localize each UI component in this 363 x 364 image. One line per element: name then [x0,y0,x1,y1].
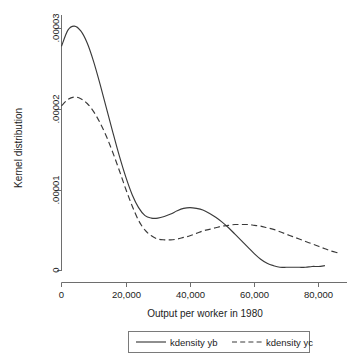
x-tick-label: 40,000 [176,289,205,300]
legend-label-kdensity-yc: kdensity yc [266,337,313,348]
y-tick-label: .00003 [50,13,61,42]
y-tick-group: 0 .00001 .00002 .00003 [50,13,61,272]
y-tick-label: .00001 [50,175,61,204]
y-tick-label: .00002 [50,94,61,123]
x-tick-group: 0 20,000 40,000 60,000 80,000 [59,283,333,301]
series-line-kdensity-yc [62,97,338,253]
x-tick-label: 0 [59,289,64,300]
series-line-kdensity-yb [62,26,325,267]
x-tick-label: 80,000 [304,289,333,300]
y-tick-label: 0 [50,267,61,272]
x-axis-title: Output per worker in 1980 [147,308,263,319]
chart-legend: kdensity yb kdensity yc [129,332,314,353]
legend-label-kdensity-yb: kdensity yb [170,337,218,348]
kernel-density-chart: 0 .00001 .00002 .00003 0 20,000 40,000 6… [0,0,363,364]
y-axis-title: Kernel distribution [13,108,24,188]
x-tick-label: 20,000 [112,289,141,300]
chart-canvas: 0 .00001 .00002 .00003 0 20,000 40,000 6… [0,0,363,364]
x-tick-label: 60,000 [240,289,269,300]
